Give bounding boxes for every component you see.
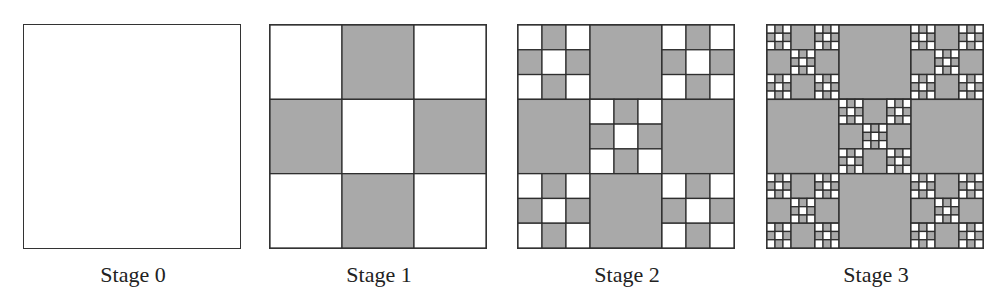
white-cell [847, 108, 855, 116]
white-cell [871, 132, 879, 140]
white-cell [935, 50, 943, 58]
shaded-cell [919, 25, 927, 33]
white-cell [414, 174, 486, 248]
shaded-cell [710, 198, 734, 223]
shaded-cell [895, 99, 903, 107]
white-cell [951, 215, 959, 223]
shaded-cell [775, 25, 783, 33]
white-cell [775, 231, 783, 239]
white-cell [895, 157, 903, 165]
white-cell [823, 231, 831, 239]
white-cell [710, 174, 734, 199]
shaded-cell [807, 207, 815, 215]
shaded-cell [951, 207, 959, 215]
white-cell [895, 108, 903, 116]
white-cell [911, 25, 919, 33]
shaded-cell [959, 182, 967, 190]
shaded-cell [967, 240, 975, 248]
white-cell [831, 240, 839, 248]
white-cell [831, 42, 839, 50]
shaded-cell [791, 75, 815, 100]
shaded-cell [542, 75, 566, 100]
shaded-cell [775, 223, 783, 231]
shaded-cell [879, 132, 887, 140]
shaded-cell [887, 124, 911, 149]
shaded-cell [815, 33, 823, 41]
shaded-cell [614, 99, 638, 124]
white-cell [967, 83, 975, 91]
shaded-cell [799, 198, 807, 206]
shaded-cell [911, 33, 919, 41]
white-cell [831, 190, 839, 198]
white-cell [662, 75, 686, 100]
white-cell [799, 58, 807, 66]
shaded-cell [566, 50, 590, 75]
white-cell [270, 25, 342, 99]
white-cell [767, 91, 775, 99]
shaded-cell [927, 33, 935, 41]
white-cell [935, 66, 943, 74]
shaded-cell [935, 207, 943, 215]
shaded-cell [662, 50, 686, 75]
white-cell [911, 75, 919, 83]
shaded-cell [935, 174, 959, 199]
shaded-cell [895, 116, 903, 124]
white-cell [927, 75, 935, 83]
white-cell [935, 198, 943, 206]
stage-0-square [23, 24, 241, 249]
white-cell [975, 42, 983, 50]
shaded-cell [975, 182, 983, 190]
shaded-cell [943, 198, 951, 206]
white-cell [975, 75, 983, 83]
white-cell [975, 174, 983, 182]
shaded-cell [887, 157, 895, 165]
shaded-cell [767, 83, 775, 91]
stage-0: Stage 0 [23, 24, 243, 249]
shaded-cell [775, 42, 783, 50]
white-cell [767, 174, 775, 182]
white-cell [767, 223, 775, 231]
shaded-cell [686, 223, 710, 248]
white-cell [839, 116, 847, 124]
shaded-cell [919, 91, 927, 99]
white-cell [879, 141, 887, 149]
shaded-cell [590, 174, 662, 248]
white-cell [791, 66, 799, 74]
white-cell [951, 198, 959, 206]
white-cell [638, 149, 662, 174]
shaded-cell [863, 149, 887, 174]
white-cell [815, 240, 823, 248]
white-cell [662, 25, 686, 50]
shaded-cell [919, 223, 927, 231]
shaded-cell [919, 42, 927, 50]
white-cell [815, 91, 823, 99]
white-cell [270, 174, 342, 248]
white-cell [783, 42, 791, 50]
shaded-cell [895, 165, 903, 173]
shaded-cell [783, 231, 791, 239]
white-cell [542, 198, 566, 223]
shaded-cell [903, 157, 911, 165]
white-cell [767, 42, 775, 50]
white-cell [927, 25, 935, 33]
white-cell [903, 116, 911, 124]
white-cell [783, 91, 791, 99]
shaded-cell [823, 240, 831, 248]
shaded-cell [783, 83, 791, 91]
shaded-cell [542, 174, 566, 199]
shaded-cell [791, 223, 815, 248]
shaded-cell [783, 33, 791, 41]
shaded-cell [791, 25, 815, 50]
white-cell [518, 174, 542, 199]
white-cell [967, 231, 975, 239]
stage-2-square [517, 24, 735, 249]
white-cell [791, 198, 799, 206]
shaded-cell [823, 25, 831, 33]
white-cell [686, 50, 710, 75]
shaded-cell [871, 124, 879, 132]
shaded-cell [911, 231, 919, 239]
shaded-cell [935, 223, 959, 248]
white-cell [823, 33, 831, 41]
shaded-cell [775, 91, 783, 99]
shaded-cell [855, 157, 863, 165]
